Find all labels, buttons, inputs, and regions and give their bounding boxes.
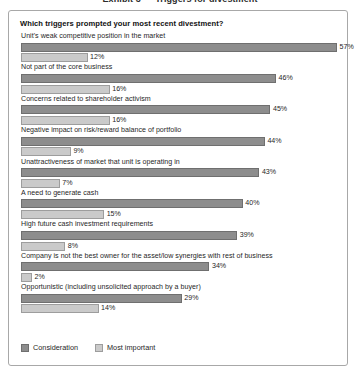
bar-group: High future cash investment requirements… [20, 220, 338, 251]
exhibit-header-text: Exhibit 3 — Triggers for divestment [0, 0, 360, 4]
bar-row-consideration: 43% [21, 168, 276, 177]
bar-consideration [21, 105, 270, 114]
bar-value-label: 12% [88, 53, 105, 62]
bar-group: A need to generate cash40%15% [20, 189, 338, 220]
bar-row-consideration: 45% [21, 105, 287, 114]
bar-group: Company is not the best owner for the as… [20, 252, 338, 283]
bar-most-important [21, 147, 71, 156]
bar-group: Unattractiveness of market that unit is … [20, 158, 338, 189]
bar-group-label: A need to generate cash [21, 189, 98, 197]
bar-most-important [21, 85, 110, 94]
bar-value-label: 39% [237, 231, 254, 240]
bar-most-important [21, 210, 104, 219]
bar-group: Opportunistic (including unsolicited app… [20, 283, 338, 314]
bar-chart-plot-area: Unit's weak competitive position in the … [20, 32, 338, 315]
bar-value-label: 34% [209, 262, 226, 271]
bar-row-consideration: 46% [21, 74, 293, 83]
bar-value-label: 46% [276, 74, 293, 83]
bar-value-label: 8% [65, 242, 78, 251]
bar-value-label: 16% [110, 85, 127, 94]
bar-group-label: Company is not the best owner for the as… [21, 252, 273, 260]
bar-group-label: Negative impact on risk/reward balance o… [21, 126, 181, 134]
bar-consideration [21, 43, 337, 52]
chart-legend: ConsiderationMost important [21, 343, 155, 352]
bar-value-label: 16% [110, 116, 127, 125]
legend-entry-most-important: Most important [95, 343, 155, 352]
legend-label: Most important [107, 343, 155, 352]
bar-group: Not part of the core business46%16% [20, 63, 338, 94]
exhibit-header: Exhibit 3 — Triggers for divestment [0, 0, 360, 10]
bar-most-important [21, 53, 88, 62]
bar-row-most-important: 8% [21, 242, 78, 251]
bar-most-important [21, 179, 60, 188]
bar-value-label: 14% [99, 304, 116, 313]
bar-consideration [21, 231, 237, 240]
bar-group: Unit's weak competitive position in the … [20, 32, 338, 63]
bar-consideration [21, 199, 243, 208]
bar-row-most-important: 12% [21, 53, 104, 62]
bar-row-most-important: 9% [21, 147, 84, 156]
bar-row-most-important: 16% [21, 85, 126, 94]
bar-value-label: 29% [182, 294, 199, 303]
bar-row-most-important: 7% [21, 179, 73, 188]
bar-row-consideration: 40% [21, 199, 259, 208]
bar-group-label: High future cash investment requirements [21, 220, 153, 228]
bar-group-label: Opportunistic (including unsolicited app… [21, 283, 201, 291]
bar-row-consideration: 34% [21, 262, 226, 271]
bar-group: Negative impact on risk/reward balance o… [20, 126, 338, 157]
bar-group-label: Unattractiveness of market that unit is … [21, 158, 180, 166]
bar-row-consideration: 44% [21, 137, 282, 146]
bar-value-label: 2% [32, 273, 45, 282]
bar-row-consideration: 57% [21, 43, 354, 52]
legend-swatch-most-important [95, 344, 103, 352]
bar-value-label: 44% [265, 137, 282, 146]
bar-row-consideration: 39% [21, 231, 254, 240]
bar-row-consideration: 29% [21, 294, 198, 303]
bar-value-label: 57% [337, 43, 354, 52]
bar-consideration [21, 74, 276, 83]
bar-value-label: 9% [71, 147, 84, 156]
chart-title: Which triggers prompted your most recent… [20, 19, 223, 28]
bar-group-label: Not part of the core business [21, 63, 112, 71]
bar-consideration [21, 137, 265, 146]
bar-row-most-important: 2% [21, 273, 45, 282]
bar-consideration [21, 294, 182, 303]
bar-most-important [21, 242, 65, 251]
legend-entry-consideration: Consideration [21, 343, 78, 352]
bar-value-label: 15% [104, 210, 121, 219]
bar-most-important [21, 116, 110, 125]
bar-row-most-important: 16% [21, 116, 126, 125]
legend-swatch-consideration [21, 344, 29, 352]
bar-group-label: Unit's weak competitive position in the … [21, 32, 165, 40]
bar-value-label: 7% [60, 179, 73, 188]
bar-group-label: Concerns related to shareholder activism [21, 95, 151, 103]
bar-most-important [21, 304, 99, 313]
legend-label: Consideration [33, 343, 78, 352]
bar-most-important [21, 273, 32, 282]
bar-row-most-important: 15% [21, 210, 121, 219]
bar-consideration [21, 168, 259, 177]
bar-value-label: 40% [243, 199, 260, 208]
bar-value-label: 45% [270, 105, 287, 114]
bar-row-most-important: 14% [21, 304, 115, 313]
bar-value-label: 43% [259, 168, 276, 177]
bar-consideration [21, 262, 209, 271]
chart-panel: Which triggers prompted your most recent… [8, 10, 348, 366]
bar-group: Concerns related to shareholder activism… [20, 95, 338, 126]
